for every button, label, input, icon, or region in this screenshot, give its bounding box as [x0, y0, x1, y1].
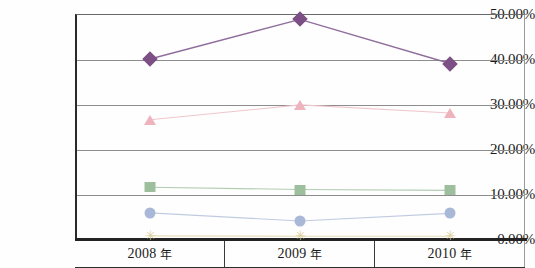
x-axis-category-table: 2008年 2009年 2010年: [75, 241, 525, 268]
x-label-unit: 年: [310, 245, 322, 263]
x-label-unit: 年: [160, 245, 172, 263]
x-axis-category-2008: 2008年: [75, 241, 225, 267]
gridline-40: [77, 60, 524, 61]
gridline-10: [77, 195, 524, 196]
x-label-year: 2008: [127, 246, 156, 262]
x-label-year: 2009: [277, 246, 306, 262]
plot-area: [75, 14, 525, 239]
x-label-unit: 年: [460, 245, 472, 263]
gridline-20: [77, 150, 524, 151]
gridline-30: [77, 105, 524, 106]
x-axis-category-2010: 2010年: [375, 241, 525, 267]
x-axis-category-2009: 2009年: [225, 241, 375, 267]
chart-figure: 50.00% 40.00% 30.00% 20.00% 10.00% 0.00%…: [0, 0, 535, 268]
x-label-year: 2010: [427, 246, 456, 262]
